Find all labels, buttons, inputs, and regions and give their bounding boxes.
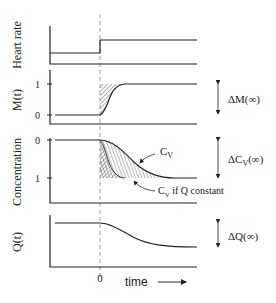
cv-delta-label: ΔCV(∞) — [228, 153, 264, 168]
m-delta-label: ΔM(∞) — [228, 93, 260, 106]
q-delta-label: ΔQ(∞) — [228, 230, 259, 243]
q-panel: Q(t) ΔQ(∞) — [10, 215, 259, 267]
m-hatched-area — [100, 84, 124, 115]
q-curve — [55, 223, 197, 247]
m-panel: M(t) 1 0 ΔM(∞) — [10, 70, 260, 124]
m-curve — [55, 84, 197, 115]
m-axes — [50, 70, 197, 124]
q-ylabel: Q(t) — [10, 232, 24, 252]
m-tick-1: 1 — [35, 79, 40, 90]
heart-rate-ylabel: Heart rate — [10, 21, 24, 69]
concentration-panel: Concentration 0 1 CV CV if Q constant ΔC… — [10, 135, 264, 206]
m-tick-0: 0 — [35, 110, 40, 121]
heart-rate-panel: Heart rate — [10, 21, 197, 69]
conc-tick-0: 0 — [35, 135, 40, 146]
time-zero-label: 0 — [97, 272, 103, 284]
cv-annotation-arrow — [140, 154, 155, 163]
cv-q-constant-annotation: CV if Q constant — [158, 185, 224, 199]
physiology-diagram: Heart rate M(t) 1 0 ΔM(∞) Concentration … — [0, 0, 276, 303]
cv-q-constant-annotation-arrow — [134, 181, 155, 191]
cv-annotation: CV — [160, 145, 173, 160]
heart-rate-axes — [50, 26, 197, 64]
conc-tick-1: 1 — [35, 173, 40, 184]
heart-rate-step-curve — [50, 40, 197, 53]
m-ylabel: M(t) — [10, 89, 24, 111]
concentration-ylabel: Concentration — [10, 138, 24, 206]
time-axis-label: time — [125, 275, 148, 289]
